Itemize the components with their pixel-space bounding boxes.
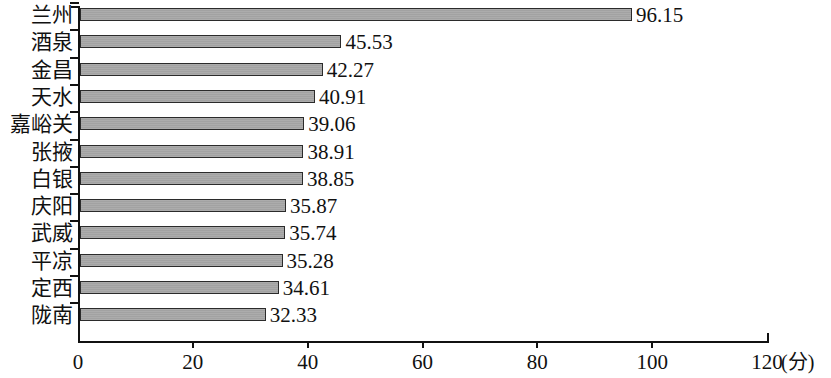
bar (80, 199, 286, 212)
x-axis-tick-label: 40 (278, 349, 338, 375)
bar-value-label: 40.91 (319, 87, 366, 108)
bar-value-label: 35.74 (289, 223, 336, 244)
bar (80, 8, 632, 21)
category-label: 武威 (31, 223, 73, 244)
x-axis-tick (536, 341, 538, 348)
x-axis-tick (307, 341, 309, 348)
category-label: 白银 (31, 169, 73, 190)
bar (80, 63, 323, 76)
bar (80, 117, 304, 130)
bar-value-label: 45.53 (345, 32, 392, 53)
category-label: 定西 (31, 278, 73, 299)
x-axis-tick-label: 60 (393, 349, 453, 375)
bar-value-label: 34.61 (283, 278, 330, 299)
bar-value-label: 38.91 (307, 142, 354, 163)
category-label: 酒泉 (31, 32, 73, 53)
bar (80, 226, 285, 239)
category-label: 平凉 (31, 251, 73, 272)
x-axis-tick (192, 341, 194, 348)
bar-value-label: 96.15 (636, 5, 683, 26)
bar (80, 281, 279, 294)
bar-chart: 020406080100120 (分) 兰州酒泉金昌天水嘉峪关张掖白银庆阳武威平… (0, 0, 831, 378)
x-axis-line (78, 341, 769, 343)
x-axis-tick-label: 100 (622, 349, 682, 375)
bar (80, 172, 303, 185)
bar-value-label: 32.33 (270, 305, 317, 326)
bar-value-label: 39.06 (308, 114, 355, 135)
bar (80, 308, 266, 321)
category-label: 庆阳 (31, 196, 73, 217)
category-label: 陇南 (31, 305, 73, 326)
x-axis-unit-label: (分) (781, 349, 814, 375)
bar (80, 35, 341, 48)
category-label: 张掖 (31, 142, 73, 163)
category-label: 金昌 (31, 60, 73, 81)
bar-value-label: 42.27 (327, 60, 374, 81)
x-axis-tick-label: 20 (163, 349, 223, 375)
bar-value-label: 35.28 (287, 251, 334, 272)
bar-value-label: 35.87 (290, 196, 337, 217)
bar (80, 254, 283, 267)
bar (80, 145, 303, 158)
x-axis-tick-label: 0 (48, 349, 108, 375)
category-label: 天水 (31, 87, 73, 108)
x-axis-tick-label: 80 (507, 349, 567, 375)
category-label: 嘉峪关 (10, 114, 73, 135)
bar-value-label: 38.85 (307, 169, 354, 190)
x-axis-end-cap (767, 333, 769, 343)
bar (80, 90, 315, 103)
x-axis-tick (651, 341, 653, 348)
category-label: 兰州 (31, 5, 73, 26)
x-axis-tick (422, 341, 424, 348)
